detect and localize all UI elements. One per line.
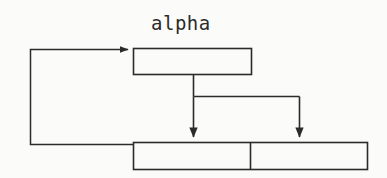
connector-feedback-loop — [31, 50, 134, 145]
diagram-svg-layer — [0, 0, 387, 178]
node-bottom-box[interactable] — [134, 143, 368, 170]
node-alpha-box[interactable] — [134, 49, 252, 75]
diagram-canvas: alpha — [0, 0, 387, 178]
